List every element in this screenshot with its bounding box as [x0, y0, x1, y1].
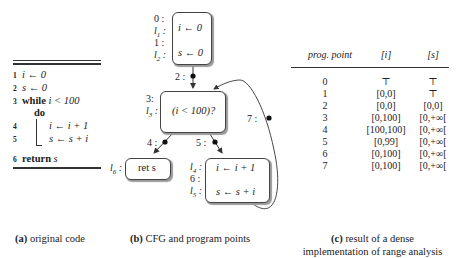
program-point-5-dot: [212, 139, 217, 144]
label-point-1: 1 :: [154, 38, 164, 48]
header-prog-point: prog. point: [300, 49, 360, 61]
cfg-node-return: ret s: [125, 158, 171, 180]
label-l2: l2 :: [154, 50, 166, 64]
label-l5: l5 :: [190, 186, 202, 200]
label-point-3: 3:: [146, 94, 154, 104]
condition-text: (i < 100)?: [172, 105, 215, 116]
label-point-4: 4 :: [147, 138, 157, 148]
label-point-5: 5 :: [196, 138, 206, 148]
label-point-0: 0 :: [154, 14, 164, 24]
cfg-node-entry: i ← 0 s ← 0: [172, 12, 212, 65]
cfg-node-condition: (i < 100)?: [160, 91, 226, 133]
caption-c: (c) result of a dense implementation of …: [290, 232, 455, 258]
header-rule: [291, 67, 449, 68]
label-l6: l6 :: [110, 163, 122, 177]
program-point-7-dot: [266, 115, 271, 120]
label-point-6: 6 :: [190, 174, 200, 184]
header-i: [i]: [361, 49, 411, 61]
label-point-2: 2 :: [175, 72, 185, 82]
header-s: [s]: [408, 49, 458, 61]
label-point-7: 7 :: [247, 114, 257, 124]
caption-b: (b) CFG and program points: [130, 232, 250, 245]
program-point-4-dot: [162, 139, 167, 144]
cfg-node-body: i ← i + 1 s ← s + i: [205, 158, 270, 203]
label-l3: l3 :: [146, 106, 158, 120]
program-point-2-dot: [190, 73, 195, 78]
